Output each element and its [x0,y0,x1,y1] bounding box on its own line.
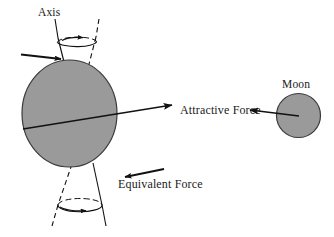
axis-label: Axis [38,6,61,18]
attractive-force-label: Attractive Force [180,103,261,117]
moon-label: Moon [282,78,310,90]
bottom-precession-cone [58,163,102,212]
axis-segment-upper-right [96,19,99,37]
bottom-cone-right-edge [93,163,102,205]
tidal-force-diagram: Axis Attractive Force Equivalent Force M… [0,0,334,237]
planet-body [22,60,117,167]
bottom-precession-direction-arrow [60,207,86,211]
equivalent-force-label: Equivalent Force [118,177,203,191]
diagram-canvas: Axis Attractive Force Equivalent Force M… [0,0,334,237]
axis-segment-lower-left [52,205,58,226]
bottom-cone-ellipse-back [58,198,102,205]
equivalent-force-arrow [125,169,164,177]
axis-segment-upper-left [55,19,58,38]
axis-segment-lower-right [102,205,106,226]
top-cone-ellipse-front [57,41,96,46]
top-torque-arrow [21,55,61,60]
top-cone-right-edge [88,37,96,68]
